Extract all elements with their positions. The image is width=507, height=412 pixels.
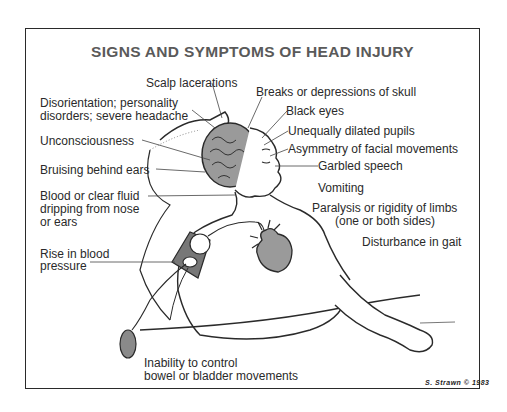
label-facial-asymmetry: Asymmetry of facial movements [288, 142, 458, 156]
right-arm [335, 275, 433, 352]
pressure-gauge [190, 234, 210, 254]
label-paralysis-line1: Paralysis or rigidity of limbs [312, 201, 457, 215]
label-blood-fluid-line3: or ears [40, 215, 77, 229]
label-scalp-lacerations: Scalp lacerations [146, 76, 237, 90]
label-bowel-bladder-line2: bowel or bladder movements [144, 369, 298, 383]
label-disorientation-line2: disorders; severe headache [40, 109, 188, 123]
label-gait: Disturbance in gait [362, 235, 461, 249]
label-disorientation-line1: Disorientation; personality [40, 96, 178, 110]
label-blood-pressure-line2: pressure [40, 259, 87, 273]
artist-signature: S. Strawn © 1983 [425, 379, 490, 386]
label-bruising-ears: Bruising behind ears [40, 163, 149, 177]
label-blood-fluid-line2: dripping from nose [40, 202, 139, 216]
inflation-bulb [120, 330, 136, 358]
label-skull-breaks: Breaks or depressions of skull [256, 85, 416, 99]
heart-shape [257, 229, 292, 272]
label-blood-fluid-line1: Blood or clear fluid [40, 189, 139, 203]
label-garbled-speech: Garbled speech [318, 159, 403, 173]
label-bowel-bladder-line1: Inability to control [144, 356, 237, 370]
label-paralysis-line2: (one or both sides) [335, 214, 435, 228]
label-black-eyes: Black eyes [286, 104, 344, 118]
label-dilated-pupils: Unequally dilated pupils [288, 124, 415, 138]
label-vomiting: Vomiting [318, 181, 364, 195]
label-unconsciousness: Unconsciousness [40, 134, 134, 148]
